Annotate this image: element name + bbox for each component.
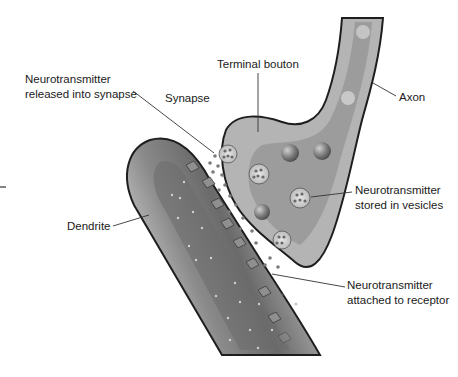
label-released-into-synapse: Neurotransmitter released into synapse bbox=[25, 72, 137, 102]
axon-terminal bbox=[222, 18, 383, 267]
label-dendrite: Dendrite bbox=[67, 219, 110, 234]
label-attached-to-receptor: Neurotransmitter attached to receptor bbox=[347, 278, 449, 308]
label-line-1: Neurotransmitter bbox=[25, 72, 137, 87]
label-line-2: released into synapse bbox=[25, 87, 137, 102]
label-stored-in-vesicles: Neurotransmitter stored in vesicles bbox=[355, 183, 443, 213]
label-line-2: stored in vesicles bbox=[355, 198, 443, 213]
label-line-1: Neurotransmitter bbox=[347, 278, 449, 293]
synapse-diagram: Neurotransmitter released into synapse S… bbox=[0, 0, 458, 377]
label-terminal-bouton: Terminal bouton bbox=[217, 57, 299, 72]
label-line-2: attached to receptor bbox=[347, 293, 449, 308]
label-line-1: Neurotransmitter bbox=[355, 183, 443, 198]
label-synapse: Synapse bbox=[165, 91, 210, 106]
label-axon: Axon bbox=[399, 90, 425, 105]
